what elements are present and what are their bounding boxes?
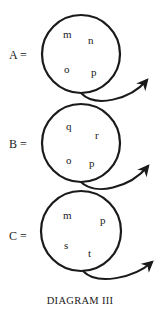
set-c-element-1: m	[63, 210, 72, 221]
set-b-shape	[42, 104, 148, 189]
set-a-shape	[42, 15, 147, 101]
set-c-shape	[41, 191, 152, 279]
set-a-label: A =	[9, 48, 39, 62]
set-b-element-3: o	[66, 155, 72, 166]
set-b-circle	[42, 104, 120, 182]
set-c-circle	[41, 191, 121, 271]
diagram-caption: DIAGRAM III	[0, 295, 160, 306]
set-b-element-2: r	[95, 130, 99, 141]
set-a-element-2: n	[88, 35, 94, 46]
diagram-canvas	[0, 0, 160, 313]
set-a-circle	[42, 15, 120, 93]
set-c-element-2: p	[100, 215, 106, 226]
set-a-element-4: p	[91, 67, 97, 78]
set-c-element-4: t	[88, 248, 91, 259]
set-c-element-3: s	[64, 240, 68, 251]
set-a-arrow	[81, 80, 147, 101]
set-b-element-4: p	[89, 158, 95, 169]
set-b-element-1: q	[66, 121, 72, 132]
set-a-element-1: m	[63, 29, 72, 40]
set-b-arrow	[81, 166, 148, 189]
set-a-element-3: o	[64, 64, 70, 75]
set-c-arrow	[83, 262, 152, 279]
set-c-label: C =	[9, 229, 39, 243]
set-b-label: B =	[9, 137, 39, 151]
